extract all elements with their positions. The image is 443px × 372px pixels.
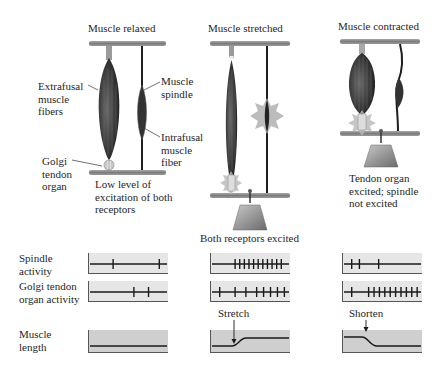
activity-traces — [0, 0, 443, 372]
